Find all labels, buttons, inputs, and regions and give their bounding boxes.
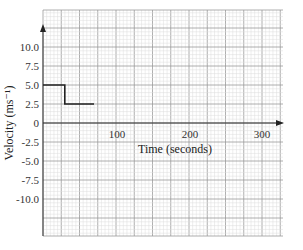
y-tick-label: 10.0	[20, 41, 40, 53]
x-tick-label: 300	[254, 128, 271, 140]
x-tick-label: 100	[109, 128, 126, 140]
x-tick-label: 200	[182, 128, 199, 140]
y-tick-label: 5.0	[25, 79, 39, 91]
y-axis-title: Velocity (ms⁻¹)	[2, 86, 16, 161]
y-tick-label: -2.5	[22, 136, 40, 148]
y-tick-label: 7.5	[25, 60, 39, 72]
y-tick-label: -5.0	[22, 155, 40, 167]
x-axis-title: Time (seconds)	[138, 142, 212, 156]
y-tick-label: 0	[34, 117, 40, 129]
y-tick-label: 2.5	[25, 98, 39, 110]
y-tick-label: -10.0	[16, 193, 39, 205]
velocity-time-graph: 10.0 7.5 5.0 2.5 0 -2.5 -5.0 -7.5 -10.0 …	[0, 0, 303, 250]
y-tick-label: -7.5	[22, 174, 40, 186]
